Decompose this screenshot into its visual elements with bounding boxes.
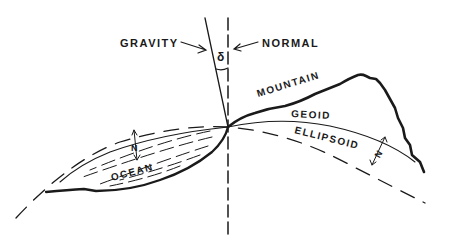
diagram-canvas: GRAVITY NORMAL δ MOUNTAIN GEOID ELLIPSOI… [0, 0, 453, 246]
normal-arrow [234, 42, 258, 51]
gravity-arrow [181, 42, 206, 53]
ocean-undulation-label: N [131, 143, 139, 153]
gravity-label: GRAVITY [120, 37, 179, 49]
normal-label: NORMAL [262, 37, 319, 49]
geoid-ellipsoid-diagram: GRAVITY NORMAL δ MOUNTAIN GEOID ELLIPSOI… [0, 0, 453, 246]
mountain-label: MOUNTAIN [255, 69, 321, 99]
ocean-label: OCEAN [110, 161, 155, 183]
land-undulation-label: N [373, 148, 386, 160]
geoid-label: GEOID [291, 108, 331, 121]
deflection-angle-arc [216, 68, 228, 70]
gravity-line [205, 18, 228, 127]
ellipsoid-curve [16, 127, 425, 218]
ellipsoid-label: ELLIPSOID [294, 124, 361, 151]
ocean-hatching [80, 131, 212, 186]
deflection-symbol: δ [217, 50, 226, 64]
